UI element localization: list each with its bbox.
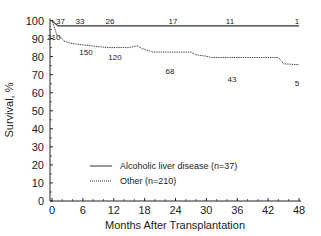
x-tick-label: 12 xyxy=(108,204,120,216)
x-axis-title: Months After Transplantation xyxy=(105,219,245,231)
at-risk-label-alcoholic: 1 xyxy=(295,17,300,26)
y-tick-label: 90 xyxy=(32,33,44,45)
at-risk-label-other: 43 xyxy=(228,75,237,84)
x-tick-label: 42 xyxy=(262,204,274,216)
y-axis-title: Survival, % xyxy=(3,82,15,137)
plot-area: 3733261711121015012068435 xyxy=(47,17,300,88)
x-tick-label: 48 xyxy=(293,204,305,216)
at-risk-label-alcoholic: 37 xyxy=(56,17,65,26)
y-tick-label: 0 xyxy=(38,195,44,207)
legend: Alcoholic liver disease (n=37) Other (n=… xyxy=(90,161,237,186)
x-tick-label: 24 xyxy=(169,204,181,216)
at-risk-label-other: 5 xyxy=(295,79,300,88)
series-line-other xyxy=(52,21,299,65)
x-tick-label: 30 xyxy=(200,204,212,216)
y-tick-label: 10 xyxy=(32,177,44,189)
y-tick-label: 50 xyxy=(32,105,44,117)
y-tick-label: 40 xyxy=(32,123,44,135)
y-tick-label: 30 xyxy=(32,141,44,153)
survival-chart: 3733261711121015012068435 01020304050607… xyxy=(0,0,321,236)
y-tick-label: 20 xyxy=(32,159,44,171)
legend-label-other: Other (n=210) xyxy=(120,176,176,186)
at-risk-label-other: 120 xyxy=(108,53,122,62)
y-tick-label: 70 xyxy=(32,69,44,81)
y-tick-label: 60 xyxy=(32,87,44,99)
at-risk-label-other: 210 xyxy=(47,33,61,42)
x-tick-label: 6 xyxy=(80,204,86,216)
x-tick-label: 0 xyxy=(49,204,55,216)
at-risk-label-other: 68 xyxy=(166,67,175,76)
y-tick-label: 80 xyxy=(32,51,44,63)
legend-label-alcoholic: Alcoholic liver disease (n=37) xyxy=(120,161,237,171)
at-risk-label-alcoholic: 17 xyxy=(169,17,178,26)
at-risk-label-alcoholic: 11 xyxy=(226,17,235,26)
at-risk-label-other: 150 xyxy=(79,48,93,57)
y-tick-label: 100 xyxy=(26,15,44,27)
x-tick-label: 18 xyxy=(139,204,151,216)
at-risk-label-alcoholic: 26 xyxy=(106,17,115,26)
at-risk-label-alcoholic: 33 xyxy=(76,17,85,26)
y-axis: 0102030405060708090100 xyxy=(26,15,53,208)
x-tick-label: 36 xyxy=(231,204,243,216)
x-axis: 0612182430364248 xyxy=(49,198,305,216)
